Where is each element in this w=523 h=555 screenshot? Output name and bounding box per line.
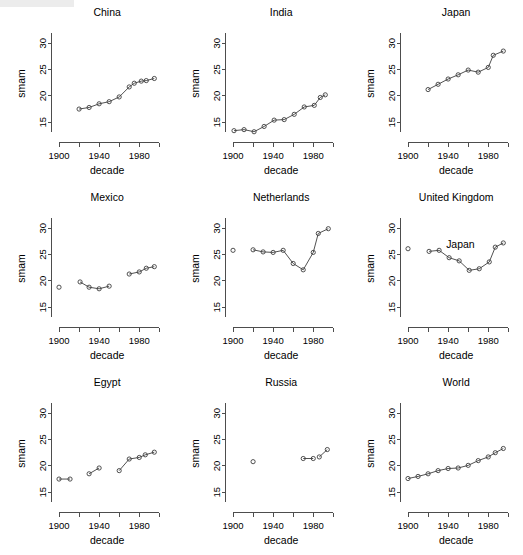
chart-panel: Russia15202530smam190019401980decade — [174, 370, 348, 555]
x-tick-label: 1980 — [477, 335, 498, 346]
series-line — [320, 450, 328, 457]
y-axis-title: smam — [16, 439, 27, 468]
y-tick-label: 30 — [212, 223, 223, 234]
y-tick-label: 15 — [386, 487, 397, 498]
data-point-marker — [97, 466, 101, 470]
data-point-marker — [326, 447, 330, 451]
x-tick-label: 1900 — [397, 150, 418, 161]
y-tick-label: 15 — [37, 117, 48, 128]
x-tick-label: 1940 — [437, 520, 458, 531]
y-tick-label: 20 — [37, 91, 48, 102]
x-tick-label: 1940 — [89, 520, 110, 531]
y-tick-label: 30 — [212, 38, 223, 49]
y-tick-label: 20 — [386, 276, 397, 287]
data-point-marker — [57, 285, 61, 289]
y-axis-title: smam — [16, 254, 27, 283]
chart-panel: Mexico15202530smam190019401980decade — [0, 185, 174, 370]
y-tick-label: 20 — [386, 461, 397, 472]
x-tick-label: 1900 — [397, 520, 418, 531]
y-axis-title: smam — [190, 439, 201, 468]
series-line — [119, 452, 154, 470]
y-tick-label: 20 — [37, 461, 48, 472]
y-tick-label: 20 — [212, 276, 223, 287]
x-tick-label: 1940 — [263, 150, 284, 161]
x-tick-label: 1900 — [48, 520, 69, 531]
x-axis-title: decade — [264, 350, 299, 361]
x-axis-title: decade — [90, 165, 125, 176]
y-tick-label: 25 — [386, 434, 397, 445]
y-tick-label: 30 — [37, 223, 48, 234]
y-tick-label: 25 — [212, 64, 223, 75]
x-tick-label: 1900 — [48, 150, 69, 161]
data-point-marker — [406, 247, 410, 251]
x-tick-label: 1900 — [223, 335, 244, 346]
panel-title: China — [93, 7, 121, 18]
y-tick-label: 15 — [212, 117, 223, 128]
x-tick-label: 1900 — [397, 335, 418, 346]
y-tick-label: 30 — [37, 38, 48, 49]
x-tick-label: 1940 — [437, 335, 458, 346]
series-line — [408, 448, 503, 478]
y-axis-title: smam — [364, 69, 375, 98]
series-line — [79, 78, 154, 109]
x-axis-title: decade — [90, 535, 125, 546]
x-axis-title: decade — [439, 350, 474, 361]
y-tick-label: 15 — [37, 302, 48, 313]
x-tick-label: 1980 — [129, 520, 150, 531]
y-tick-label: 25 — [212, 434, 223, 445]
chart-panel: Netherlands15202530smam190019401980decad… — [174, 185, 348, 370]
y-axis-title: smam — [364, 254, 375, 283]
y-axis-title: smam — [190, 254, 201, 283]
y-tick-label: 25 — [37, 249, 48, 260]
y-tick-label: 25 — [386, 249, 397, 260]
y-tick-label: 30 — [37, 408, 48, 419]
x-tick-label: 1900 — [223, 150, 244, 161]
panel-title: Egypt — [94, 377, 121, 388]
y-tick-label: 20 — [386, 91, 397, 102]
y-axis-title: smam — [364, 439, 375, 468]
y-tick-label: 20 — [212, 461, 223, 472]
y-tick-label: 25 — [37, 64, 48, 75]
x-axis-title: decade — [439, 535, 474, 546]
y-tick-label: 30 — [386, 38, 397, 49]
x-tick-label: 1980 — [303, 520, 324, 531]
y-axis-title: smam — [190, 69, 201, 98]
y-tick-label: 20 — [37, 276, 48, 287]
y-tick-label: 15 — [37, 487, 48, 498]
x-tick-label: 1980 — [129, 335, 150, 346]
panel-title: Japan — [442, 7, 471, 18]
x-tick-label: 1940 — [437, 150, 458, 161]
data-point-marker — [426, 87, 430, 91]
chart-panel: Egypt15202530smam190019401980decade — [0, 370, 174, 555]
chart-panel: Japan15202530smam190019401980decade — [349, 0, 523, 185]
series-line — [80, 282, 109, 289]
x-tick-label: 1900 — [48, 335, 69, 346]
chart-panel: World15202530smam190019401980decade — [349, 370, 523, 555]
y-tick-label: 15 — [386, 117, 397, 128]
data-point-marker — [231, 248, 235, 252]
chart-panel-grid: China15202530smam190019401980decadeIndia… — [0, 0, 523, 555]
y-tick-label: 25 — [386, 64, 397, 75]
x-tick-label: 1940 — [89, 150, 110, 161]
data-point-marker — [327, 227, 331, 231]
panel-title: World — [442, 377, 469, 388]
data-point-marker — [117, 469, 121, 473]
x-tick-label: 1980 — [303, 150, 324, 161]
x-axis-title: decade — [439, 165, 474, 176]
y-tick-label: 30 — [212, 408, 223, 419]
chart-panel: United Kingdom15202530smam190019401980de… — [349, 185, 523, 370]
data-point-marker — [251, 460, 255, 464]
x-tick-label: 1980 — [303, 335, 324, 346]
series-line — [234, 95, 325, 132]
x-axis-title: decade — [90, 350, 125, 361]
chart-panel: China15202530smam190019401980decade — [0, 0, 174, 185]
x-tick-label: 1940 — [263, 335, 284, 346]
y-tick-label: 20 — [212, 91, 223, 102]
chart-panel: India15202530smam190019401980decade — [174, 0, 348, 185]
y-tick-label: 15 — [386, 302, 397, 313]
y-axis-title: smam — [16, 69, 27, 98]
y-tick-label: 15 — [212, 302, 223, 313]
panel-title: Russia — [265, 377, 297, 388]
x-axis-title: decade — [264, 165, 299, 176]
x-tick-label: 1940 — [89, 335, 110, 346]
